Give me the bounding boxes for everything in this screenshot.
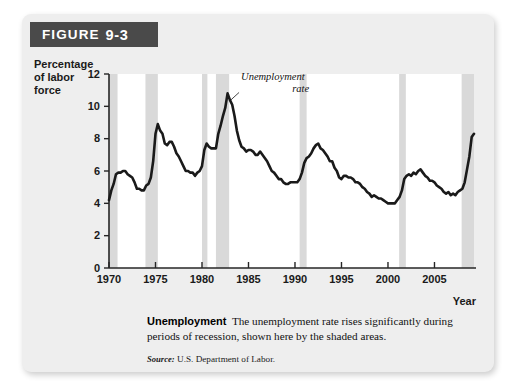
x-tick-label: 2000 xyxy=(376,273,400,285)
y-axis-ticks: 024681012 xyxy=(88,68,109,274)
y-tick-label: 0 xyxy=(94,262,100,274)
caption-block: Unemployment The unemployment rate rises… xyxy=(147,314,477,364)
x-tick-label: 1985 xyxy=(236,273,260,285)
x-tick-label: 1975 xyxy=(143,273,167,285)
y-tick-label: 6 xyxy=(94,165,100,177)
y-axis-title-line: Percentage xyxy=(34,58,93,70)
chart-plot-panel: 024681012 197019751980198519901995200020… xyxy=(34,56,484,306)
x-tick-label: 2005 xyxy=(422,273,446,285)
annotation-label: rate xyxy=(292,83,309,94)
figure-header-band: FIGURE 9-3 xyxy=(30,22,158,47)
x-tick-label: 1995 xyxy=(329,273,353,285)
recession-band-3 xyxy=(202,74,207,268)
x-axis-title: Year xyxy=(453,295,477,306)
figure-card: FIGURE 9-3 024681012 1970197519801985199… xyxy=(22,14,494,372)
y-tick-label: 8 xyxy=(94,132,100,144)
source-label: Source: xyxy=(147,354,175,364)
x-tick-label: 1990 xyxy=(283,273,307,285)
unemployment-line-chart: 024681012 197019751980198519901995200020… xyxy=(34,56,484,306)
y-tick-label: 10 xyxy=(88,100,100,112)
caption-text: Unemployment The unemployment rate rises… xyxy=(147,314,477,345)
x-tick-label: 1970 xyxy=(97,273,121,285)
caption-lead: Unemployment xyxy=(147,315,226,327)
y-axis-title-line: of labor xyxy=(34,71,75,83)
recession-band-1 xyxy=(109,74,118,268)
figure-header-number: 9-3 xyxy=(100,27,129,43)
recession-band-6 xyxy=(399,74,406,268)
y-tick-label: 4 xyxy=(94,197,101,209)
y-axis-title-line: force xyxy=(34,84,61,96)
y-tick-label: 2 xyxy=(94,229,100,241)
annotation-label: Unemployment xyxy=(241,71,306,82)
figure-header-label: FIGURE xyxy=(30,27,100,42)
x-tick-label: 1980 xyxy=(190,273,214,285)
source-line: Source: U.S. Department of Labor. xyxy=(147,354,477,364)
source-text: U.S. Department of Labor. xyxy=(177,354,275,364)
